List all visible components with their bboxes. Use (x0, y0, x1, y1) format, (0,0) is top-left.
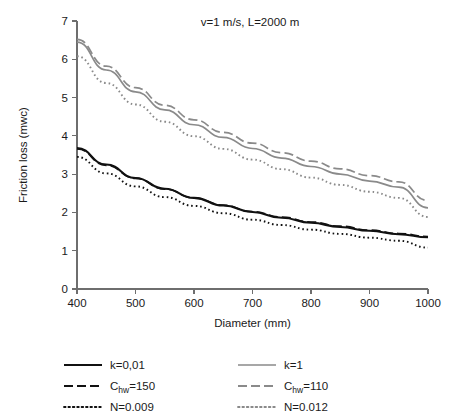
x-axis-title: Diameter (mm) (214, 317, 291, 329)
y-tick-label: 5 (62, 92, 68, 104)
x-tick-label: 900 (360, 297, 379, 309)
series-line-5 (77, 56, 428, 217)
legend-label-1: k=1 (284, 359, 303, 371)
legend-label-rest-3: =110 (303, 380, 328, 392)
series-group (77, 39, 428, 247)
legend-label-3: Chw=110 (284, 380, 328, 395)
legend-label-rest-2: =150 (129, 380, 155, 392)
legend-label-5: N=0.012 (284, 401, 328, 413)
friction-loss-line-chart: 012345674005006007008009001000Diameter (… (0, 0, 449, 418)
y-tick-label: 3 (62, 168, 68, 180)
y-tick-label: 2 (62, 206, 68, 218)
legend-label-2: Chw=150 (110, 380, 155, 395)
labels-group: 012345674005006007008009001000Diameter (… (17, 15, 441, 329)
legend-label-main-2: C (110, 380, 118, 392)
y-tick-label: 6 (62, 53, 68, 65)
x-tick-label: 800 (301, 297, 320, 309)
y-axis-title: Friction loss (mwc) (17, 107, 29, 203)
x-tick-label: 700 (243, 297, 262, 309)
series-line-0 (77, 148, 428, 237)
axes-group (72, 21, 428, 294)
legend-label-0: k=0,01 (110, 359, 145, 371)
chart-title: v=1 m/s, L=2000 m (201, 16, 299, 28)
x-tick-label: 500 (126, 297, 145, 309)
y-tick-label: 4 (62, 130, 69, 142)
x-tick-label: 400 (67, 297, 86, 309)
y-tick-label: 1 (62, 245, 68, 257)
y-tick-label: 0 (62, 283, 68, 295)
legend-group: k=0,01k=1Chw=150Chw=110N=0.009N=0.012 (64, 359, 328, 413)
legend-label-main-3: C (284, 380, 292, 392)
x-tick-label: 1000 (415, 297, 441, 309)
series-line-3 (77, 42, 428, 208)
series-line-1 (77, 149, 428, 237)
x-tick-label: 600 (184, 297, 203, 309)
chart-figure: 012345674005006007008009001000Diameter (… (0, 0, 449, 418)
y-tick-label: 7 (62, 15, 68, 27)
series-line-2 (77, 157, 428, 248)
legend-label-4: N=0.009 (110, 401, 154, 413)
